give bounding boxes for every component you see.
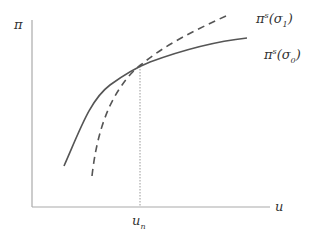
curve0-close: ): [296, 47, 301, 62]
un-label: un: [132, 214, 146, 231]
diagram: π u un πs(σ1) πs(σ0): [0, 0, 315, 238]
un-sub: n: [140, 222, 145, 231]
curve-sigma1-label: πs(σ1): [256, 12, 293, 29]
curve1-base: π: [256, 11, 265, 26]
curve1-close: ): [288, 11, 293, 26]
y-axis-label: π: [14, 18, 23, 31]
curve1-open: (σ: [269, 11, 283, 26]
curve-sigma0-label: πs(σ0): [264, 48, 301, 65]
curve0-base: π: [264, 47, 273, 62]
x-axis-label: u: [275, 200, 283, 213]
curve-sigma1: [92, 16, 226, 176]
curve-sigma0: [64, 38, 247, 166]
diagram-canvas: [0, 0, 315, 238]
curve0-open: (σ: [277, 47, 291, 62]
